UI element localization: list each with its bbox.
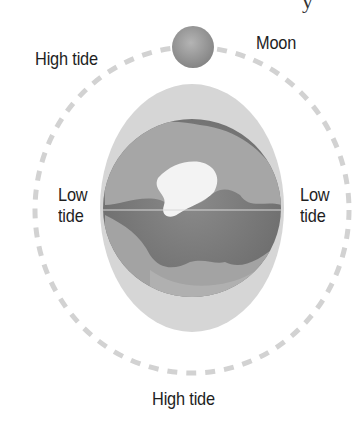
label-low-tide-right-line1: Low xyxy=(300,185,329,205)
cut-off-title-glyph: y xyxy=(302,0,313,14)
moon xyxy=(172,26,214,68)
label-low-tide-left-line2: tide xyxy=(58,206,84,226)
label-high-tide-top: High tide xyxy=(35,49,98,69)
label-low-tide-right-line2: tide xyxy=(300,206,326,226)
label-high-tide-bottom: High tide xyxy=(152,389,215,409)
tide-diagram: y High tide Moon Low tide Low tide High … xyxy=(0,0,361,426)
label-low-tide-left-line1: Low xyxy=(58,185,87,205)
label-moon: Moon xyxy=(256,33,296,53)
